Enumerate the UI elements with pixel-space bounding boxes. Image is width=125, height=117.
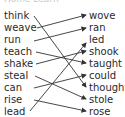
line-run-ran [34, 28, 86, 41]
line-can-could [34, 75, 86, 88]
line-weave-wove [37, 15, 86, 28]
line-rise-rose [34, 100, 86, 111]
matching-lines [0, 0, 125, 117]
